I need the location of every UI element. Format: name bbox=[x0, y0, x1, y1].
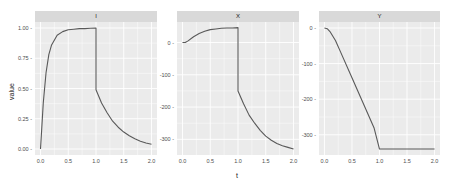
x-tick-label: 0.0 bbox=[172, 158, 192, 164]
y-tick-label: -100 - bbox=[288, 61, 316, 67]
facet-plot-area bbox=[35, 22, 157, 155]
y-tick-label: 0.00 - bbox=[4, 146, 32, 152]
y-tick-label: -200 - bbox=[288, 96, 316, 102]
x-tick-label: 2.0 bbox=[142, 158, 162, 164]
x-tick-label: 1.0 bbox=[370, 158, 390, 164]
facet-panel-y bbox=[319, 22, 440, 155]
facet-plot-area bbox=[177, 22, 299, 155]
y-tick-label: 0 - bbox=[146, 40, 174, 46]
y-tick-label: 0.75 - bbox=[4, 55, 32, 61]
x-tick-label: 1.5 bbox=[114, 158, 134, 164]
x-tick-label: 0.5 bbox=[200, 158, 220, 164]
facet-plot-area bbox=[319, 22, 440, 155]
y-tick-label: -300 - bbox=[146, 136, 174, 142]
facet-panel-x bbox=[177, 22, 299, 155]
y-axis-label: value bbox=[8, 77, 15, 107]
x-tick-label: 1.0 bbox=[228, 158, 248, 164]
x-tick-label: 0.5 bbox=[342, 158, 362, 164]
y-tick-label: -100 - bbox=[146, 72, 174, 78]
facet-panel-i bbox=[35, 22, 157, 155]
x-tick-label: 0.0 bbox=[30, 158, 50, 164]
y-tick-label: 0 - bbox=[288, 25, 316, 31]
y-tick-label: -300 - bbox=[288, 132, 316, 138]
x-tick-label: 1.5 bbox=[256, 158, 276, 164]
x-tick-label: 1.5 bbox=[397, 158, 417, 164]
x-tick-label: 2.0 bbox=[425, 158, 445, 164]
facet-strip-y: Y bbox=[319, 11, 440, 22]
facet-strip-x: X bbox=[177, 11, 299, 22]
y-tick-label: 1.00 - bbox=[4, 25, 32, 31]
x-tick-label: 0.0 bbox=[314, 158, 334, 164]
x-tick-label: 0.5 bbox=[58, 158, 78, 164]
y-tick-label: -200 - bbox=[146, 104, 174, 110]
x-axis-label: t bbox=[236, 172, 238, 179]
x-tick-label: 2.0 bbox=[284, 158, 304, 164]
x-tick-label: 1.0 bbox=[86, 158, 106, 164]
y-tick-label: 0.25 - bbox=[4, 116, 32, 122]
facet-strip-i: I bbox=[35, 11, 157, 22]
